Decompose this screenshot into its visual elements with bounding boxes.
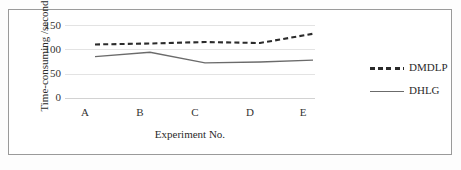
legend-swatch-dhlg	[370, 91, 404, 92]
x-tick-label-e: E	[293, 106, 313, 118]
series-line-dhlg	[95, 52, 313, 63]
legend-swatch-dmdlp	[370, 67, 404, 70]
x-axis-title: Experiment No.	[65, 128, 315, 140]
y-tick-label-0: 0	[56, 92, 62, 103]
chart-figure: Time-consuming /second 150 100 50 0 A B …	[0, 0, 461, 170]
series-plot	[65, 25, 315, 98]
y-tick-label-150: 150	[45, 20, 62, 31]
x-tick-label-c: C	[185, 106, 205, 118]
chart-legend: DMDLP DHLG	[370, 60, 454, 106]
x-tick-label-d: D	[240, 106, 260, 118]
x-tick-label-a: A	[75, 106, 95, 118]
x-axis-tick-labels: A B C D E	[65, 106, 315, 120]
legend-item-dhlg[interactable]: DHLG	[370, 83, 454, 106]
legend-item-dmdlp[interactable]: DMDLP	[370, 60, 454, 83]
series-line-dmdlp	[95, 34, 313, 45]
gridline-0	[65, 98, 315, 99]
legend-label-dhlg: DHLG	[409, 83, 440, 97]
y-tick-label-50: 50	[50, 68, 61, 79]
plot-area	[65, 25, 315, 98]
legend-label-dmdlp: DMDLP	[409, 60, 448, 74]
y-axis-tick-labels: 150 100 50 0	[36, 25, 61, 98]
y-tick-label-100: 100	[45, 44, 62, 55]
x-tick-label-b: B	[130, 106, 150, 118]
